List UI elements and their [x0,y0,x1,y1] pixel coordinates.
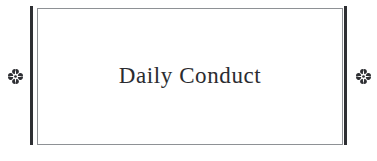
heading-container: Daily Conduct [38,8,342,143]
quatrefoil-floret-ornament-right [355,68,372,85]
right-vertical-rule [344,6,347,145]
left-vertical-rule [30,6,33,145]
quatrefoil-floret-ornament-left [7,68,24,85]
page-title: Daily Conduct [119,64,262,87]
document-page: Daily Conduct [0,0,377,161]
